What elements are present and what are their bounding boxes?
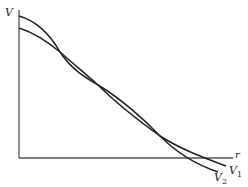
y-axis-label: V: [5, 7, 13, 18]
x-axis-label: r: [235, 150, 240, 160]
chart-canvas: [0, 0, 248, 187]
legend-v2: V2: [214, 172, 227, 186]
curve-v1: [19, 28, 226, 166]
curve-v2: [19, 16, 218, 172]
legend-v1: V1: [229, 165, 242, 179]
